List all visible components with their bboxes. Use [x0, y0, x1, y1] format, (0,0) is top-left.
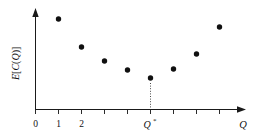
y-axis-title-e: E	[10, 74, 21, 81]
x-axis-ticks	[36, 110, 220, 115]
x-tick-label-optimum: Q	[143, 119, 151, 130]
cost-curve-figure: 0 1 2 Q * Q E[C(Q)]	[0, 0, 263, 136]
data-point	[102, 58, 107, 63]
x-tick-label-1: 1	[56, 119, 61, 129]
x-tick-label-0: 0	[33, 119, 38, 129]
y-axis-title-close-bracket: ]	[10, 47, 21, 50]
y-axis-title: E[C(Q)]	[10, 47, 22, 81]
data-point-series	[56, 16, 222, 80]
data-point	[148, 75, 153, 80]
data-point	[194, 51, 199, 56]
y-axis-arrowhead	[32, 8, 38, 17]
x-tick-label-optimum-star: *	[153, 117, 157, 125]
x-axis-title: Q	[239, 119, 247, 130]
y-axis-group	[32, 8, 38, 110]
x-tick-label-2: 2	[79, 119, 84, 129]
data-point	[217, 24, 222, 29]
data-point	[56, 16, 61, 21]
x-axis-tick-labels: 0 1 2 Q *	[33, 117, 157, 130]
x-axis-group	[36, 106, 247, 112]
scatter-plot: 0 1 2 Q * Q E[C(Q)]	[0, 0, 263, 136]
data-point	[171, 66, 176, 71]
x-axis-arrowhead	[237, 106, 246, 112]
data-point	[125, 67, 130, 72]
y-axis-title-group: E[C(Q)]	[10, 47, 22, 81]
data-point	[79, 44, 84, 49]
